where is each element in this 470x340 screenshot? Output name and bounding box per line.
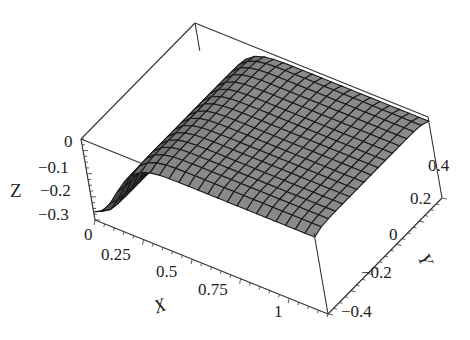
- y-tick-mark: [436, 204, 439, 205]
- x-tick-label: 0: [84, 226, 93, 243]
- y-tick-mark: [414, 227, 417, 228]
- box-edge: [195, 23, 200, 51]
- x-tick-mark: [211, 267, 212, 270]
- x-tick-mark: [240, 279, 241, 284]
- y-tick-mark: [334, 308, 337, 309]
- z-axis-label: Z: [10, 181, 22, 200]
- x-tick-mark: [249, 283, 250, 286]
- x-tick-mark: [308, 306, 309, 309]
- y-tick-mark: [408, 233, 411, 234]
- x-tick-mark: [327, 314, 328, 317]
- z-tick-label: −0.2: [40, 182, 71, 199]
- y-tick-mark: [402, 239, 405, 240]
- x-tick-mark: [172, 251, 173, 254]
- y-tick-label: 0: [389, 226, 398, 243]
- x-tick-mark: [181, 255, 182, 258]
- x-tick-mark: [259, 287, 260, 290]
- y-tick-label: 0.2: [410, 190, 431, 207]
- y-tick-mark: [425, 215, 428, 216]
- x-tick-mark: [298, 302, 299, 305]
- y-tick-label: 0.4: [428, 157, 449, 174]
- x-tick-mark: [278, 294, 279, 297]
- x-tick-mark: [317, 310, 318, 313]
- x-tick-mark: [288, 298, 289, 303]
- x-tick-label: 0.5: [156, 263, 177, 280]
- surface-mesh: [94, 56, 429, 237]
- x-tick-mark: [113, 228, 114, 231]
- x-tick-mark: [269, 291, 270, 294]
- y-tick-mark: [357, 285, 360, 286]
- y-tick-mark: [345, 297, 348, 298]
- z-tick-label: −0.3: [38, 206, 69, 223]
- x-tick-mark: [152, 244, 153, 247]
- x-tick-mark: [220, 271, 221, 274]
- y-tick-mark: [431, 210, 434, 211]
- x-tick-mark: [133, 236, 134, 239]
- y-tick-mark: [442, 198, 447, 199]
- y-tick-label: −0.2: [361, 264, 392, 281]
- y-tick-label: −0.4: [341, 303, 372, 320]
- x-tick-mark: [162, 247, 163, 250]
- x-tick-mark: [143, 240, 144, 245]
- surface-plot: [0, 0, 470, 340]
- x-tick-mark: [191, 259, 192, 264]
- x-tick-mark: [94, 220, 95, 225]
- box-edge: [81, 23, 195, 139]
- box-edge: [314, 233, 328, 314]
- y-tick-mark: [328, 314, 333, 315]
- y-tick-mark: [396, 244, 401, 245]
- x-tick-label: 0.25: [101, 246, 131, 263]
- y-tick-mark: [419, 221, 424, 222]
- x-tick-label: 1: [274, 303, 283, 320]
- x-tick-label: 0.75: [198, 281, 228, 298]
- z-tick-label: 0: [64, 133, 73, 150]
- y-tick-mark: [351, 291, 356, 292]
- y-tick-mark: [385, 256, 388, 257]
- x-tick-mark: [201, 263, 202, 266]
- x-tick-mark: [230, 275, 231, 278]
- x-tick-mark: [123, 232, 124, 235]
- z-tick-label: −0.1: [38, 159, 69, 176]
- y-tick-mark: [391, 250, 394, 251]
- x-tick-mark: [104, 224, 105, 227]
